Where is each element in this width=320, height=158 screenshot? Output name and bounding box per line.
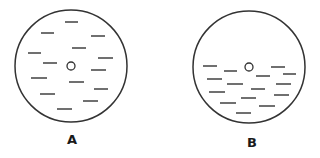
center-marker-a — [67, 62, 75, 70]
panel-b — [193, 11, 305, 123]
panel-a — [15, 10, 127, 122]
panel-label-a: A — [62, 132, 82, 147]
particle-dashes-b — [203, 66, 296, 113]
panel-label-b: B — [242, 135, 262, 150]
center-marker-b — [245, 63, 253, 71]
diagram-canvas — [0, 0, 320, 158]
